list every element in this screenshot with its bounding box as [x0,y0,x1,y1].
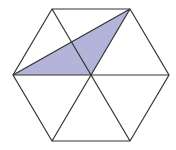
diagonal-bottom-right [91,75,130,141]
diagonal-bottom-left [52,75,91,141]
hexagon-diagram [0,0,176,150]
hexagon-diagonals [13,9,169,141]
